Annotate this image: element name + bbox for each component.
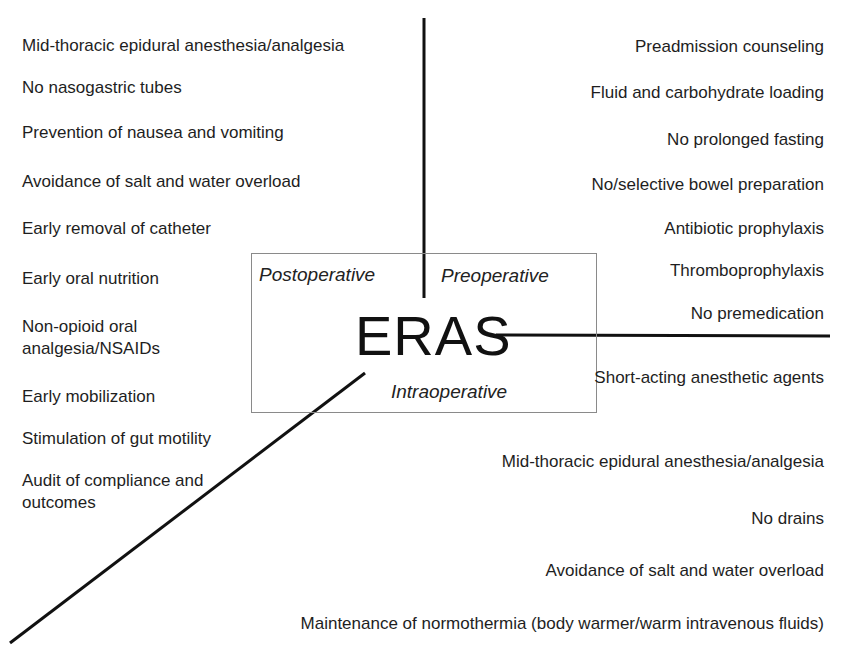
postop-item: Stimulation of gut motility	[22, 428, 211, 450]
preop-item: Preadmission counseling	[635, 36, 824, 58]
postop-item: Audit of compliance and outcomes	[22, 470, 212, 514]
postop-item: Non-opioid oral analgesia/NSAIDs	[22, 316, 197, 360]
eras-title: ERAS	[355, 308, 512, 364]
postop-item: Mid-thoracic epidural anesthesia/analges…	[22, 35, 344, 57]
preop-item: No prolonged fasting	[667, 129, 824, 151]
postop-item: Early removal of catheter	[22, 218, 211, 240]
preop-item: No/selective bowel preparation	[592, 174, 824, 196]
intraop-item: Short-acting anesthetic agents	[594, 367, 824, 389]
preop-item: No premedication	[691, 303, 824, 325]
preop-item: Thromboprophylaxis	[670, 260, 824, 282]
postop-item: Early oral nutrition	[22, 268, 159, 290]
intraop-item: Avoidance of salt and water overload	[546, 560, 824, 582]
intraop-item: Mid-thoracic epidural anesthesia/analges…	[502, 451, 824, 473]
phase-label-postoperative: Postoperative	[259, 264, 375, 286]
phase-label-preoperative: Preoperative	[441, 265, 549, 287]
preop-item: Antibiotic prophylaxis	[664, 218, 824, 240]
preop-item: Fluid and carbohydrate loading	[591, 82, 824, 104]
intraop-item: No drains	[751, 508, 824, 530]
postop-item: Early mobilization	[22, 386, 155, 408]
postop-item: Prevention of nausea and vomiting	[22, 122, 284, 144]
intraop-item: Maintenance of normothermia (body warmer…	[301, 613, 824, 635]
phase-label-intraoperative: Intraoperative	[391, 381, 507, 403]
postop-item: No nasogastric tubes	[22, 77, 182, 99]
postop-item: Avoidance of salt and water overload	[22, 171, 300, 193]
